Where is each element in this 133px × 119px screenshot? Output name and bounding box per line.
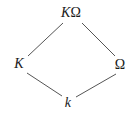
edge-k-to-K [27, 73, 62, 96]
node-label-field-K: K [14, 57, 24, 71]
node-label-field-omega: Ω [115, 58, 126, 72]
edge-Omega-to-k [76, 74, 116, 97]
node-label-composite-field: KΩ [61, 6, 81, 20]
node-bottom-main: k [65, 95, 71, 110]
node-label-base-field-k: k [65, 96, 71, 110]
node-top-main: K [61, 5, 71, 20]
edge-KOmega-to-Omega [82, 23, 115, 56]
edge-K-to-KOmega [28, 23, 63, 56]
node-right-omega: Ω [115, 57, 126, 72]
lattice-diagram: KΩ K Ω k [0, 0, 133, 119]
node-left-main: K [14, 56, 24, 71]
node-top-omega: Ω [70, 5, 81, 20]
